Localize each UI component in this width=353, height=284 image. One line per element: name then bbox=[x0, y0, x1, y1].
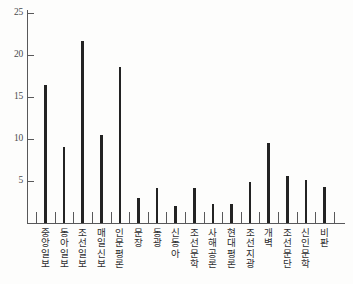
bar bbox=[119, 67, 122, 223]
bar bbox=[63, 147, 66, 223]
bar bbox=[286, 176, 289, 223]
x-tick-mark bbox=[278, 212, 279, 223]
x-tick-mark bbox=[111, 212, 112, 223]
x-tick-mark bbox=[334, 212, 335, 223]
x-tick-mark bbox=[259, 212, 260, 223]
y-tick-label: 5 bbox=[2, 175, 23, 185]
x-tick-mark bbox=[166, 212, 167, 223]
x-axis-category-label: 조선문단 bbox=[281, 228, 293, 270]
bar bbox=[81, 41, 84, 223]
x-axis-category-label: 문장 bbox=[133, 228, 145, 249]
bar bbox=[44, 85, 47, 223]
y-tick-mark bbox=[28, 13, 34, 14]
x-tick-mark bbox=[148, 212, 149, 223]
bar bbox=[212, 204, 215, 223]
x-axis-category-label: 사해공론 bbox=[207, 228, 219, 270]
x-axis-category-label: 조선일보 bbox=[77, 228, 89, 270]
bar bbox=[230, 204, 233, 223]
bar-chart: 510152025 중앙일보동아일보조선일보매일신보인문평론문장동광신동아조선문… bbox=[0, 0, 353, 284]
x-tick-mark bbox=[92, 212, 93, 223]
x-axis-category-label: 중앙일보 bbox=[40, 228, 52, 270]
x-tick-mark bbox=[55, 212, 56, 223]
bar bbox=[174, 206, 177, 223]
x-axis-category-label: 신동아 bbox=[170, 228, 182, 259]
y-tick-label: 10 bbox=[2, 133, 23, 143]
y-tick-mark bbox=[28, 97, 34, 98]
y-axis-line bbox=[27, 10, 28, 224]
bar bbox=[156, 188, 159, 223]
x-axis-category-label: 현대평론 bbox=[226, 228, 238, 270]
x-axis-category-label: 조선지광 bbox=[244, 228, 256, 270]
x-tick-mark bbox=[222, 212, 223, 223]
x-axis-category-label: 비판 bbox=[319, 228, 331, 249]
x-axis-line bbox=[27, 223, 345, 224]
x-tick-mark bbox=[241, 212, 242, 223]
y-tick-mark bbox=[28, 181, 34, 182]
x-axis-category-label: 인문평론 bbox=[114, 228, 126, 270]
x-tick-mark bbox=[297, 212, 298, 223]
x-axis-category-label: 동광 bbox=[151, 228, 163, 249]
x-tick-mark bbox=[73, 212, 74, 223]
y-tick-mark bbox=[28, 55, 34, 56]
x-axis-category-label: 개벽 bbox=[263, 228, 275, 249]
y-tick-mark bbox=[28, 139, 34, 140]
y-tick-label: 25 bbox=[2, 7, 23, 17]
bar bbox=[137, 198, 140, 223]
bar bbox=[100, 135, 103, 223]
x-axis-category-label: 신인문학 bbox=[300, 228, 312, 270]
x-tick-mark bbox=[204, 212, 205, 223]
x-tick-mark bbox=[129, 212, 130, 223]
bar bbox=[305, 180, 308, 223]
x-tick-mark bbox=[185, 212, 186, 223]
y-tick-label: 20 bbox=[2, 49, 23, 59]
y-tick-label: 15 bbox=[2, 91, 23, 101]
x-axis-category-label: 동아일보 bbox=[58, 228, 70, 270]
x-tick-mark bbox=[315, 212, 316, 223]
bar bbox=[267, 143, 270, 223]
bar bbox=[193, 188, 196, 223]
bar bbox=[249, 182, 252, 223]
bar bbox=[323, 187, 326, 223]
x-tick-mark bbox=[36, 212, 37, 223]
x-axis-category-label: 매일신보 bbox=[95, 228, 107, 270]
x-axis-category-label: 조선문학 bbox=[188, 228, 200, 270]
